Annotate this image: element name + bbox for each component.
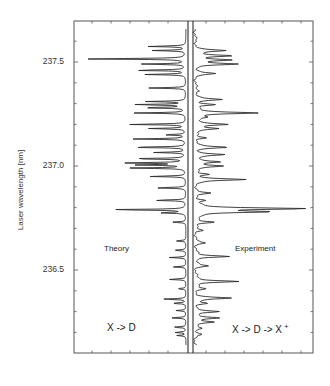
y-tick-label-237-5: 237.5 — [30, 56, 64, 66]
spectrum-figure: Laser wavelength [nm] 237.5 237.0 236.5 … — [0, 0, 330, 386]
experiment-process-label: X -> D -> X+ — [232, 322, 289, 335]
y-axis-label: Laser wavelength [nm] — [16, 150, 25, 231]
theory-process-label: X -> D — [107, 322, 136, 333]
experiment-label: Experiment — [235, 244, 275, 253]
theory-label: Theory — [104, 244, 129, 253]
y-tick-label-236-5: 236.5 — [30, 264, 64, 274]
ion-charge-superscript: + — [284, 322, 289, 331]
experiment-process-text: X -> D -> X — [232, 324, 282, 335]
theory-spectrum-trace — [88, 29, 186, 345]
experiment-spectrum-trace — [193, 29, 305, 345]
y-tick-label-237-0: 237.0 — [30, 160, 64, 170]
